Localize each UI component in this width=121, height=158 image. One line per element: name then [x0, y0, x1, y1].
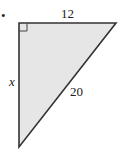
- left-side-label: x: [8, 74, 15, 89]
- triangle-diagram: • 12 x 20: [0, 0, 121, 158]
- problem-bullet: •: [1, 8, 6, 23]
- hypotenuse-label: 20: [70, 84, 83, 99]
- right-triangle-shape: [19, 23, 116, 147]
- top-side-label: 12: [61, 6, 74, 21]
